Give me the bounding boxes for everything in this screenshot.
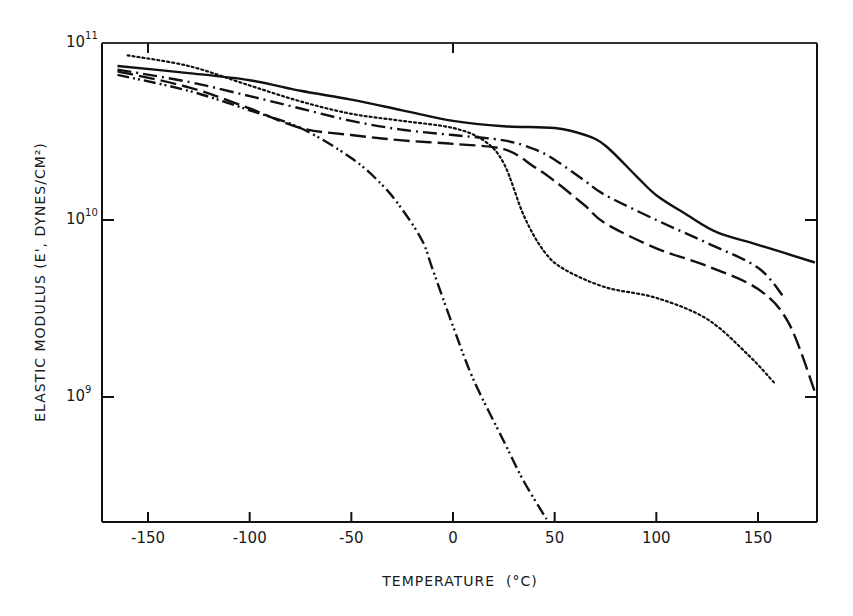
y-axis-title: ELASTIC MODULUS (E', DYNES/CM²) (32, 142, 48, 422)
y-tick-base: 10 (66, 387, 85, 405)
y-tick-exponent: 9 (85, 384, 91, 395)
y-tick-exponent: 10 (85, 207, 98, 218)
x-tick-label: 100 (642, 529, 671, 547)
y-tick-base: 10 (66, 210, 85, 228)
x-axis-title: TEMPERATURE (°C) (381, 573, 537, 589)
y-tick-exponent: 11 (85, 30, 98, 41)
y-tick-label: 1010 (66, 207, 98, 228)
x-tick-label: -100 (233, 529, 267, 547)
y-tick-label: 1011 (66, 30, 98, 51)
series-line-dotted (128, 55, 775, 382)
x-tick-label: -150 (131, 529, 165, 547)
series-line-dash-dot (118, 70, 785, 298)
series-line-solid (118, 66, 815, 263)
y-axis-ticks: 10111010109 (66, 30, 817, 405)
x-tick-label: 150 (744, 529, 773, 547)
x-axis-ticks: -150-100-50050100150 (131, 43, 772, 547)
y-tick-base: 10 (66, 33, 85, 51)
elastic-modulus-chart: -150-100-50050100150 10111010109 TEMPERA… (0, 0, 853, 616)
series-line-dash-dot-dot (118, 75, 547, 519)
plot-frame (102, 43, 817, 522)
x-tick-label: 50 (545, 529, 564, 547)
series-layer (118, 55, 815, 519)
x-tick-label: -50 (339, 529, 364, 547)
x-tick-label: 0 (448, 529, 458, 547)
y-tick-label: 109 (66, 384, 91, 405)
series-line-dashed (118, 71, 815, 391)
